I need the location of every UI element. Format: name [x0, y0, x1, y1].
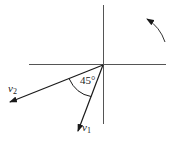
vector-diagram: 45° v2 v1: [0, 0, 176, 145]
v2-label: v2: [8, 82, 17, 96]
v1-label: v1: [82, 121, 91, 135]
angle-label: 45°: [80, 74, 95, 86]
rotation-arrow-icon: [147, 19, 165, 42]
